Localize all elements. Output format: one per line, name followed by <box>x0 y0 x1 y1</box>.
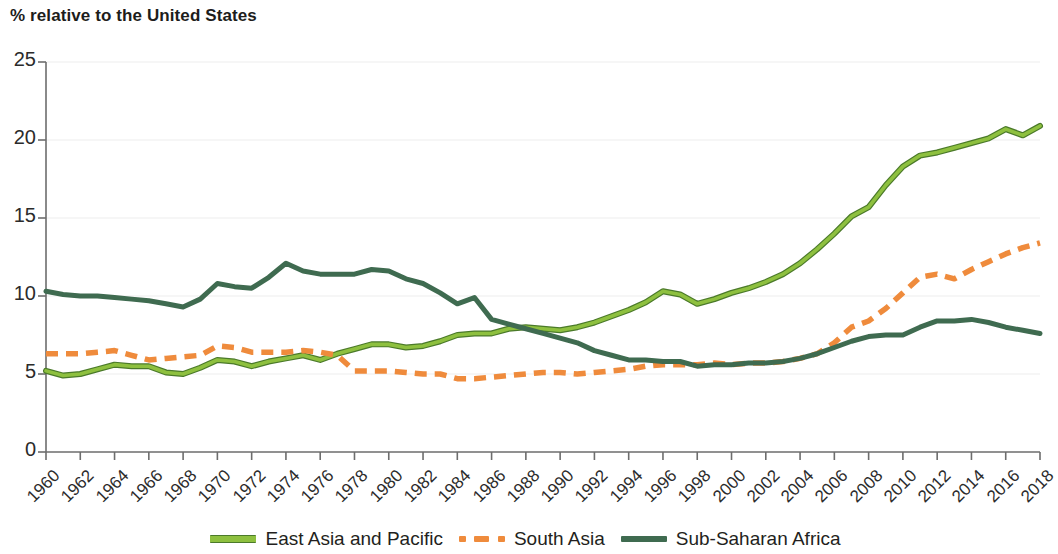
dash-segment <box>459 536 466 542</box>
line-swatch-dashed-icon <box>459 536 505 542</box>
dash-segment <box>498 536 505 542</box>
legend-item[interactable]: Sub-Saharan Africa <box>621 528 841 550</box>
legend-item[interactable]: South Asia <box>459 528 605 550</box>
series-line <box>46 243 1040 379</box>
y-axis-tick-label: 5 <box>0 360 36 383</box>
y-axis-tick-label: 25 <box>0 48 36 71</box>
line-swatch-solid-icon <box>210 535 256 543</box>
line-swatch-solid-icon <box>621 536 667 542</box>
axis-ticks <box>38 62 1040 460</box>
series-line-outline <box>46 126 1040 376</box>
dash-segment <box>474 536 489 542</box>
series-line <box>46 126 1040 376</box>
legend-item[interactable]: East Asia and Pacific <box>210 528 442 550</box>
y-axis-tick-label: 20 <box>0 126 36 149</box>
legend-label: East Asia and Pacific <box>265 528 442 550</box>
y-axis-tick-label: 0 <box>0 438 36 461</box>
series-lines <box>46 126 1040 379</box>
y-axis-tick-label: 10 <box>0 282 36 305</box>
chart-legend: East Asia and PacificSouth AsiaSub-Sahar… <box>0 524 1051 554</box>
legend-label: South Asia <box>514 528 605 550</box>
axis-lines <box>46 62 1040 452</box>
y-axis-tick-label: 15 <box>0 204 36 227</box>
legend-label: Sub-Saharan Africa <box>676 528 841 550</box>
series-line <box>46 263 1040 366</box>
